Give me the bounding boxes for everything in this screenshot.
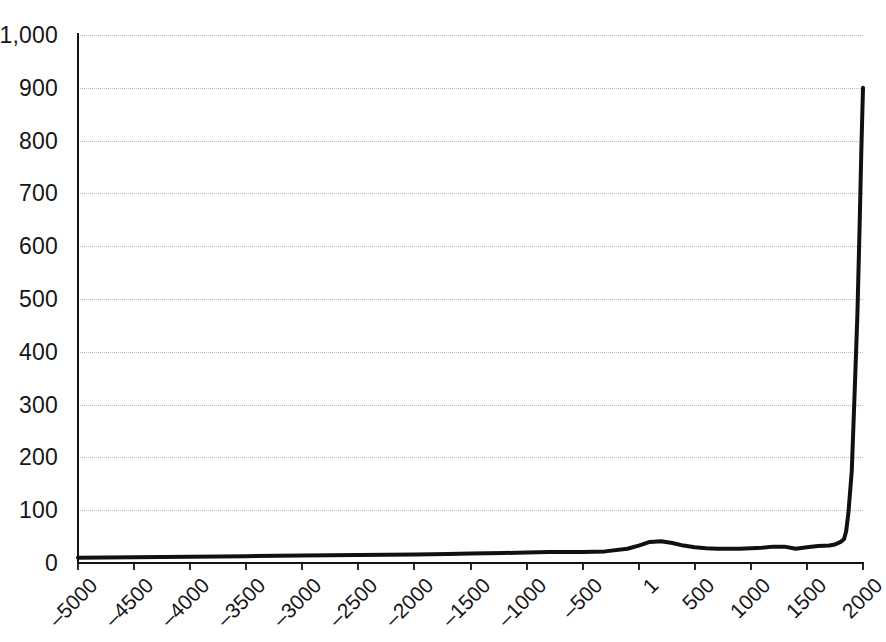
x-axis-tick bbox=[301, 564, 303, 570]
x-axis-tick bbox=[245, 564, 247, 570]
gridline bbox=[78, 405, 863, 406]
y-axis-tick-label: 800 bbox=[0, 130, 58, 153]
y-axis-tick-label: 900 bbox=[0, 77, 58, 100]
y-axis-tick-label: 400 bbox=[0, 341, 58, 364]
gridline bbox=[78, 35, 863, 36]
x-axis-tick bbox=[582, 564, 584, 570]
y-axis-tick-label: 700 bbox=[0, 182, 58, 205]
y-axis-tick-label: 100 bbox=[0, 499, 58, 522]
gridline bbox=[78, 457, 863, 458]
y-axis-tick-label: 500 bbox=[0, 288, 58, 311]
y-axis-tick-label: 300 bbox=[0, 394, 58, 417]
x-axis-tick bbox=[77, 564, 79, 570]
plot-area bbox=[78, 35, 863, 563]
x-axis-tick bbox=[526, 564, 528, 570]
gridline bbox=[78, 193, 863, 194]
x-axis-tick bbox=[750, 564, 752, 570]
gridline bbox=[78, 299, 863, 300]
gridline bbox=[78, 510, 863, 511]
y-axis-tick-label: 600 bbox=[0, 235, 58, 258]
x-axis-tick bbox=[638, 564, 640, 570]
x-axis-tick bbox=[862, 564, 864, 570]
gridline bbox=[78, 352, 863, 353]
x-axis-tick bbox=[189, 564, 191, 570]
x-axis-tick bbox=[806, 564, 808, 570]
gridline bbox=[78, 246, 863, 247]
gridline bbox=[78, 88, 863, 89]
y-axis-line bbox=[77, 33, 79, 565]
y-axis-tick-label: 0 bbox=[0, 552, 58, 575]
y-axis-tick-label: 1,000 bbox=[0, 24, 58, 47]
gridline bbox=[78, 141, 863, 142]
x-axis-tick bbox=[694, 564, 696, 570]
x-axis-tick bbox=[133, 564, 135, 570]
x-axis-tick bbox=[413, 564, 415, 570]
x-axis-tick bbox=[357, 564, 359, 570]
x-axis-tick bbox=[470, 564, 472, 570]
y-axis-tick-label: 200 bbox=[0, 446, 58, 469]
